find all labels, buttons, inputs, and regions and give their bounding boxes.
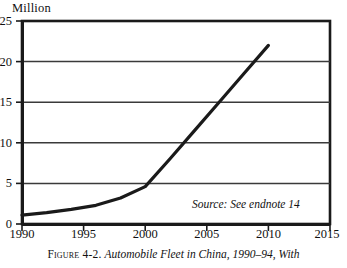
figure-automobile-fleet-china: Million — [0, 0, 347, 268]
y-tick-label-15: 15 — [0, 96, 12, 109]
x-tick-label-2005: 2005 — [184, 228, 230, 241]
x-tick-label-2010: 2010 — [245, 228, 291, 241]
source-note: Source: See endnote 14 — [192, 198, 300, 210]
x-tick-label-2000: 2000 — [122, 228, 168, 241]
y-tick-label-20: 20 — [0, 55, 12, 68]
y-tick-label-5: 5 — [0, 177, 12, 190]
y-tick-label-10: 10 — [0, 137, 12, 150]
figure-caption-title: Automobile Fleet in China, 1990–94, With — [104, 248, 299, 260]
y-tick-label-25: 25 — [0, 15, 12, 28]
figure-caption: Figure 4-2. Automobile Fleet in China, 1… — [0, 248, 347, 261]
x-tick-label-1990: 1990 — [0, 228, 45, 241]
x-tick-label-1995: 1995 — [61, 228, 107, 241]
plot-frame — [22, 21, 330, 224]
x-tick-label-2015: 2015 — [304, 228, 347, 241]
figure-caption-prefix: Figure 4-2. — [47, 248, 101, 260]
plot-area: 0 5 10 15 20 25 1990 1995 2000 2005 2010… — [0, 0, 347, 268]
line-chart-svg — [0, 0, 347, 268]
